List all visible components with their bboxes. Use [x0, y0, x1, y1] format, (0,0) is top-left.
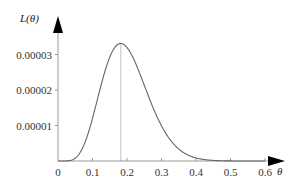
- y-tick-label: 0.00003: [16, 49, 52, 61]
- y-tick-label: 0.00001: [16, 120, 52, 132]
- x-tick-label: 0.6: [258, 166, 272, 178]
- y-tick-label: 0.00002: [16, 84, 52, 96]
- x-tick-label: 0: [55, 166, 61, 178]
- x-tick-label: 0.2: [120, 166, 134, 178]
- y-axis-arrow-icon: [53, 16, 63, 33]
- x-tick-label: 0.1: [86, 166, 100, 178]
- x-tick-label: 0.5: [224, 166, 238, 178]
- x-axis-label: θ: [277, 165, 283, 177]
- axes: [53, 16, 285, 166]
- x-tick-label: 0.3: [155, 166, 169, 178]
- y-ticks: 0.000010.000020.00003: [16, 49, 58, 132]
- y-axis-label: L(θ): [19, 12, 39, 25]
- x-tick-label: 0.4: [189, 166, 203, 178]
- likelihood-curve-path: [58, 44, 265, 162]
- likelihood-chart: 00.10.20.30.40.50.6 0.000010.000020.0000…: [0, 0, 299, 190]
- likelihood-curve: [58, 44, 265, 162]
